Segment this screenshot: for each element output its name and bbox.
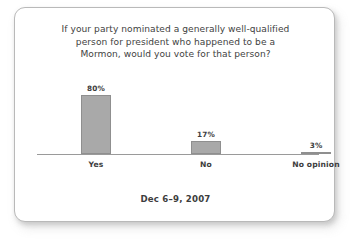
- bar-category-no: No: [151, 160, 261, 169]
- bar-group-no: 17% No: [163, 8, 249, 223]
- bar-column-no: 17%: [163, 8, 249, 154]
- chart-caption: Dec 6–9, 2007: [27, 194, 324, 204]
- poll-result-card: If your party nominated a generally well…: [14, 7, 335, 222]
- bar-category-no-opinion: No opinion: [261, 160, 354, 169]
- bar-column-no-opinion: 3%: [273, 8, 354, 154]
- bar-chart: 80% Yes 17% No 3% No opinion: [15, 8, 336, 223]
- bar-column-yes: 80%: [53, 8, 139, 154]
- bar-category-yes: Yes: [41, 160, 151, 169]
- bar-rect-yes[interactable]: [81, 95, 111, 154]
- bar-group-yes: 80% Yes: [53, 8, 139, 223]
- bar-value-no-opinion: 3%: [273, 141, 354, 150]
- bar-value-no: 17%: [163, 130, 249, 139]
- bar-rect-no-opinion[interactable]: [301, 152, 331, 154]
- bar-rect-no[interactable]: [191, 141, 221, 154]
- bar-group-no-opinion: 3% No opinion: [273, 8, 354, 223]
- bar-value-yes: 80%: [53, 84, 139, 93]
